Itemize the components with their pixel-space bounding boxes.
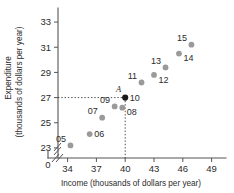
data-point-label-05: 05 [56, 134, 66, 144]
data-point-11[interactable] [139, 80, 145, 86]
x-tick-label-43: 43 [149, 163, 160, 174]
data-point-label-08: 08 [127, 107, 137, 117]
data-point-08[interactable] [119, 105, 125, 111]
x-tick-label-40: 40 [120, 163, 131, 174]
data-point-14[interactable] [176, 51, 182, 57]
x-tick-label-46: 46 [178, 163, 189, 174]
axes-layer [48, 8, 226, 162]
y-axis-title-line2: (thousands of dollars per year) [15, 26, 24, 137]
annotations-layer: A [115, 84, 122, 94]
x-tick-label-37: 37 [91, 163, 102, 174]
plot-canvas: Expenditure (thousands of dollars per ye… [0, 0, 234, 193]
tick-labels-layer: 232527293133343740434649 [40, 16, 216, 174]
y-tick-label-27: 27 [40, 92, 51, 103]
y-tick-label-31: 31 [40, 42, 51, 53]
y-axis-title-line1: Expenditure [4, 56, 13, 100]
data-point-10[interactable] [122, 94, 128, 100]
scatter-chart: Expenditure (thousands of dollars per ye… [0, 0, 234, 193]
data-point-label-06: 06 [94, 129, 104, 139]
data-point-15[interactable] [189, 42, 195, 48]
y-tick-label-33: 33 [40, 16, 51, 27]
y-tick-label-23: 23 [40, 142, 51, 153]
x-axis-title: Income (thousands of dollars per year) [61, 179, 201, 188]
x-tick-label-49: 49 [206, 163, 217, 174]
data-point-label-15: 15 [177, 33, 187, 43]
origin-label: 0 [45, 159, 50, 170]
data-point-09[interactable] [112, 103, 118, 109]
data-point-05[interactable] [68, 143, 74, 149]
y-tick-label-25: 25 [40, 117, 51, 128]
data-point-12[interactable] [151, 72, 157, 78]
data-point-label-09: 09 [100, 95, 110, 105]
y-axis-title: Expenditure (thousands of dollars per ye… [4, 26, 24, 137]
data-point-07[interactable] [99, 115, 105, 121]
data-point-label-13: 13 [151, 56, 161, 66]
y-tick-label-29: 29 [40, 67, 51, 78]
data-point-label-12: 12 [159, 75, 169, 85]
data-point-13[interactable] [163, 64, 169, 70]
data-point-label-07: 07 [88, 106, 98, 116]
data-point-label-10: 10 [130, 93, 140, 103]
point-a-label: A [115, 84, 122, 94]
x-tick-label-34: 34 [62, 163, 73, 174]
data-point-06[interactable] [87, 131, 93, 137]
data-point-label-11: 11 [128, 71, 137, 81]
data-point-label-14: 14 [183, 53, 193, 63]
